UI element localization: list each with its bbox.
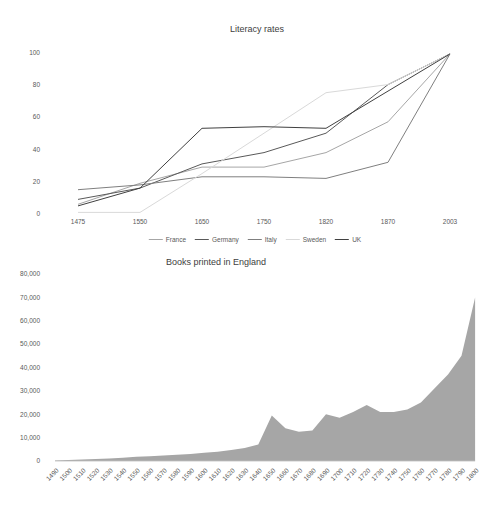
legend-item-italy: Italy	[248, 236, 277, 243]
books-y-tick-label: 50,000	[20, 340, 40, 347]
books-y-tick-label: 80,000	[20, 270, 40, 277]
books-x-tick-label: 1690	[316, 466, 331, 481]
books-x-tick-label: 1770	[424, 466, 439, 481]
books-x-tick-label: 1780	[438, 466, 453, 481]
books-x-tick-label: 1620	[221, 466, 236, 481]
books-x-tick-label: 1500	[58, 466, 73, 481]
books-x-tick-label: 1510	[72, 466, 87, 481]
legend-swatch-uk	[335, 239, 349, 240]
legend-swatch-sweden	[286, 239, 300, 240]
books-x-tick-label: 1640	[248, 466, 263, 481]
books-x-tick-label: 1800	[465, 466, 480, 481]
literacy-line-chart: 0204060801001475155016501750182018702003	[0, 0, 500, 250]
books-x-tick-label: 1520	[85, 466, 100, 481]
books-y-tick-label: 70,000	[20, 294, 40, 301]
books-x-tick-label: 1590	[180, 466, 195, 481]
books-x-tick-label: 1750	[397, 466, 412, 481]
books-x-tick-label: 1710	[343, 466, 358, 481]
literacy-x-tick-label: 1750	[257, 218, 272, 225]
books-x-tick-label: 1540	[112, 466, 127, 481]
legend-item-uk: UK	[335, 236, 361, 243]
books-x-tick-label: 1790	[451, 466, 466, 481]
literacy-y-tick-label: 0	[36, 210, 40, 217]
literacy-x-tick-label: 1870	[381, 218, 396, 225]
books-x-tick-label: 1670	[288, 466, 303, 481]
literacy-y-tick-label: 60	[33, 113, 41, 120]
legend-item-germany: Germany	[195, 236, 239, 243]
books-x-tick-label: 1490	[45, 466, 60, 481]
books-x-tick-label: 1530	[99, 466, 114, 481]
legend-swatch-france	[149, 239, 163, 240]
books-x-tick-label: 1570	[153, 466, 168, 481]
books-area-chart: 010,00020,00030,00040,00050,00060,00070,…	[0, 250, 500, 505]
books-x-tick-label: 1630	[234, 466, 249, 481]
books-x-tick-label: 1610	[207, 466, 222, 481]
books-area-series	[55, 297, 475, 461]
legend-label-italy: Italy	[265, 236, 277, 243]
legend-swatch-italy	[248, 239, 262, 240]
legend-label-germany: Germany	[212, 236, 239, 243]
literacy-y-tick-label: 100	[29, 49, 40, 56]
line-series-italy	[78, 54, 450, 190]
books-x-tick-label: 1550	[126, 466, 141, 481]
legend-label-uk: UK	[352, 236, 361, 243]
literacy-x-tick-label: 1475	[71, 218, 86, 225]
books-x-tick-label: 1560	[139, 466, 154, 481]
books-x-tick-label: 1740	[383, 466, 398, 481]
legend-label-france: France	[166, 236, 186, 243]
legend-label-sweden: Sweden	[303, 236, 327, 243]
literacy-x-tick-label: 1650	[195, 218, 210, 225]
line-series-france	[78, 54, 450, 204]
books-x-tick-label: 1680	[302, 466, 317, 481]
legend-item-france: France	[149, 236, 186, 243]
books-x-tick-label: 1760	[410, 466, 425, 481]
books-y-tick-label: 40,000	[20, 364, 40, 371]
books-y-tick-label: 0	[36, 457, 40, 464]
books-x-tick-label: 1650	[261, 466, 276, 481]
legend-swatch-germany	[195, 239, 209, 240]
literacy-y-tick-label: 40	[33, 146, 41, 153]
books-x-tick-label: 1730	[370, 466, 385, 481]
books-y-tick-label: 60,000	[20, 317, 40, 324]
literacy-x-tick-label: 2003	[443, 218, 458, 225]
literacy-x-tick-label: 1550	[133, 218, 148, 225]
books-x-tick-label: 1720	[356, 466, 371, 481]
books-y-tick-label: 20,000	[20, 411, 40, 418]
line-series-sweden	[78, 54, 450, 213]
literacy-chart-legend: FranceGermanyItalySwedenUK	[149, 236, 361, 243]
books-x-tick-label: 1580	[166, 466, 181, 481]
books-y-tick-label: 30,000	[20, 387, 40, 394]
books-x-tick-label: 1600	[194, 466, 209, 481]
line-series-uk	[78, 54, 450, 206]
literacy-y-tick-label: 20	[33, 178, 41, 185]
books-x-tick-label: 1700	[329, 466, 344, 481]
books-y-tick-label: 10,000	[20, 434, 40, 441]
legend-item-sweden: Sweden	[286, 236, 327, 243]
literacy-y-tick-label: 80	[33, 81, 41, 88]
literacy-x-tick-label: 1820	[319, 218, 334, 225]
books-x-tick-label: 1660	[275, 466, 290, 481]
